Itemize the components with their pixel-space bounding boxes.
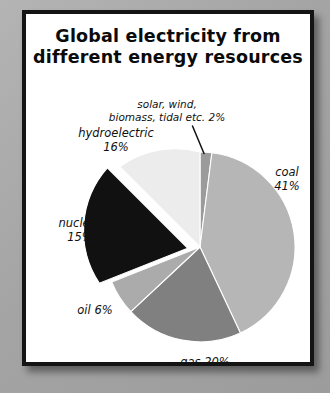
label-solar: solar, wind, biomass, tidal etc. 2%	[92, 98, 242, 123]
label-hydroelectric-name: hydroelectric	[78, 126, 154, 140]
label-oil: oil 6%	[62, 304, 128, 318]
pie-chart: solar, wind, biomass, tidal etc. 2% hydr…	[26, 14, 310, 362]
label-coal-value: 41%	[258, 180, 314, 194]
label-solar-line2: biomass, tidal etc. 2%	[92, 111, 242, 124]
label-nuclear-name: nuclear	[59, 216, 102, 230]
label-nuclear-value: 15%	[42, 231, 118, 245]
label-hydroelectric: hydroelectric 16%	[64, 127, 168, 154]
label-hydroelectric-value: 16%	[64, 141, 168, 155]
label-coal: coal 41%	[258, 166, 314, 193]
label-solar-line1: solar, wind,	[137, 98, 196, 110]
label-nuclear: nuclear 15%	[42, 217, 118, 244]
label-gas: gas 20%	[162, 356, 248, 366]
label-coal-name: coal	[275, 165, 299, 179]
chart-card: Global electricity from different energy…	[22, 10, 314, 366]
solar-leader-line	[193, 126, 205, 154]
